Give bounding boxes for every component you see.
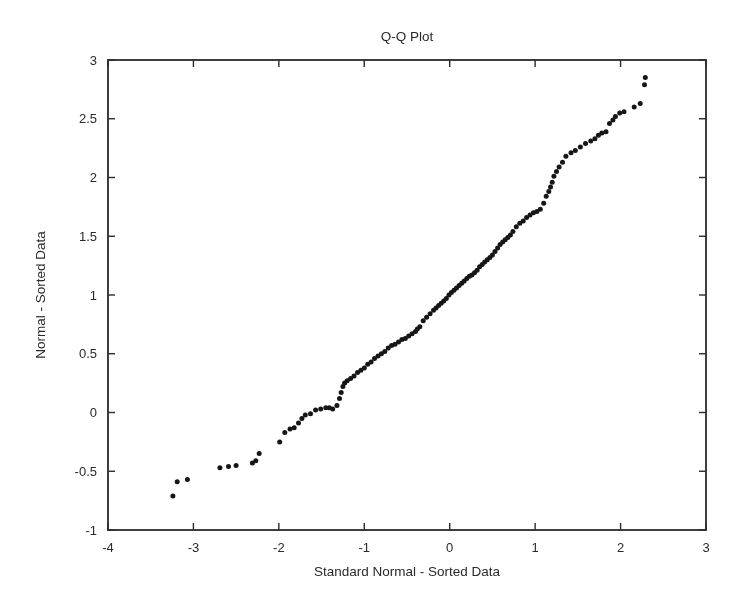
data-point xyxy=(170,493,175,498)
data-point xyxy=(417,324,422,329)
data-point xyxy=(638,101,643,106)
data-point xyxy=(510,229,515,234)
y-tick-label: 1 xyxy=(90,288,97,303)
data-point xyxy=(554,169,559,174)
x-tick-label: 2 xyxy=(617,540,624,555)
data-point xyxy=(613,114,618,119)
data-point xyxy=(622,109,627,114)
data-point xyxy=(339,390,344,395)
x-tick-label: 1 xyxy=(532,540,539,555)
data-point xyxy=(334,403,339,408)
data-point xyxy=(546,189,551,194)
y-tick-label: 0.5 xyxy=(79,346,97,361)
data-point xyxy=(617,110,622,115)
data-point xyxy=(551,174,556,179)
data-point xyxy=(643,75,648,80)
data-point xyxy=(563,154,568,159)
data-point xyxy=(604,129,609,134)
data-point xyxy=(569,150,574,155)
data-point xyxy=(313,408,318,413)
data-point xyxy=(175,479,180,484)
x-tick-label: 3 xyxy=(702,540,709,555)
data-point xyxy=(337,396,342,401)
data-point xyxy=(282,430,287,435)
data-point xyxy=(234,463,239,468)
data-point xyxy=(557,164,562,169)
data-point xyxy=(544,194,549,199)
data-point xyxy=(538,207,543,212)
data-point xyxy=(308,411,313,416)
y-tick-label: -0.5 xyxy=(75,464,97,479)
data-point xyxy=(583,141,588,146)
data-point xyxy=(642,82,647,87)
y-tick-label: 0 xyxy=(90,405,97,420)
data-point xyxy=(257,451,262,456)
axes-box xyxy=(108,60,706,530)
data-point xyxy=(560,160,565,165)
data-point xyxy=(578,145,583,150)
qq-plot-figure: Q-Q Plot Normal - Sorted Data Standard N… xyxy=(0,0,747,604)
data-point xyxy=(217,465,222,470)
data-point xyxy=(318,407,323,412)
x-tick-label: -3 xyxy=(188,540,200,555)
x-tick-label: -4 xyxy=(102,540,114,555)
data-point xyxy=(292,425,297,430)
data-point xyxy=(226,464,231,469)
data-point xyxy=(330,407,335,412)
data-point xyxy=(277,439,282,444)
data-point xyxy=(303,412,308,417)
data-point xyxy=(632,105,637,110)
data-point xyxy=(185,477,190,482)
y-tick-label: 3 xyxy=(90,53,97,68)
y-tick-label: 2.5 xyxy=(79,111,97,126)
plot-area: -4-3-2-10123-1-0.500.511.522.53 xyxy=(0,0,747,604)
data-point xyxy=(588,139,593,144)
y-tick-label: 1.5 xyxy=(79,229,97,244)
x-tick-label: -2 xyxy=(273,540,285,555)
data-point xyxy=(599,130,604,135)
data-point xyxy=(573,148,578,153)
data-point xyxy=(288,426,293,431)
data-point xyxy=(296,421,301,426)
y-tick-label: 2 xyxy=(90,170,97,185)
data-point xyxy=(541,201,546,206)
x-tick-label: -1 xyxy=(359,540,371,555)
data-point xyxy=(253,458,258,463)
data-point xyxy=(548,184,553,189)
y-tick-label: -1 xyxy=(85,523,97,538)
x-tick-label: 0 xyxy=(446,540,453,555)
data-point xyxy=(550,180,555,185)
